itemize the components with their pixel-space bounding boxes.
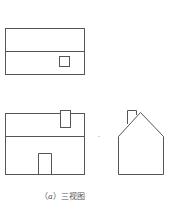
three-view-drawing — [0, 0, 186, 209]
front-view-outline — [6, 114, 85, 175]
front-view-door — [39, 154, 52, 175]
top-view-chimney — [60, 57, 70, 67]
top-view — [6, 29, 85, 75]
caption-prefix: （ — [40, 192, 48, 201]
stray-dot — [98, 136, 99, 137]
side-view-outline — [119, 113, 164, 175]
caption-text: ）三视图 — [53, 192, 85, 201]
side-view — [119, 111, 164, 175]
front-view-chimney — [61, 111, 71, 128]
front-view — [6, 111, 85, 175]
figure-caption: （a）三视图 — [40, 190, 100, 204]
